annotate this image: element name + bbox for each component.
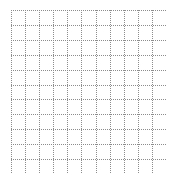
- grid-svg: [11, 10, 166, 174]
- grid-vertical-lines: [12, 10, 167, 174]
- plot-grid-area: [11, 10, 166, 174]
- grid-horizontal-lines: [11, 11, 166, 175]
- figure-canvas: — — —: [0, 0, 175, 183]
- top-tick-label-group: — — —: [0, 0, 175, 5]
